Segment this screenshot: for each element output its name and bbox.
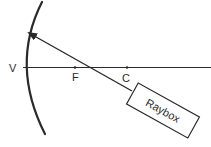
centre-label: C — [122, 72, 130, 84]
centre-point — [126, 66, 129, 69]
raybox: Raybox — [127, 83, 200, 138]
focus-label: F — [72, 71, 79, 83]
vertex-label: V — [9, 62, 17, 74]
concave-mirror-diagram: Raybox V F C — [0, 0, 211, 147]
focus-point — [74, 66, 77, 69]
light-ray — [29, 33, 132, 91]
